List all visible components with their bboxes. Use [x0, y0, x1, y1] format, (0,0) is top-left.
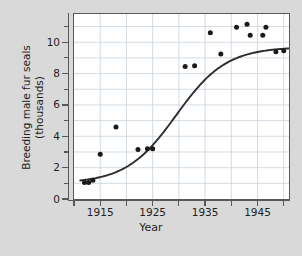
- data-point: [281, 48, 286, 53]
- y-axis-tick-major: [62, 73, 69, 74]
- x-axis-tick-label: 1915: [80, 207, 120, 218]
- data-point: [183, 64, 188, 69]
- data-point: [90, 178, 95, 183]
- data-point: [218, 51, 223, 56]
- x-axis-tick: [178, 200, 179, 206]
- data-point: [260, 33, 265, 38]
- y-axis-tick-minor: [64, 89, 69, 90]
- data-point: [273, 49, 278, 54]
- y-axis-tick-major: [62, 104, 69, 105]
- data-point: [145, 146, 150, 151]
- y-axis-tick-major: [62, 136, 69, 137]
- x-axis-tick-label: 1935: [185, 207, 225, 218]
- data-point: [248, 33, 253, 38]
- data-point: [263, 25, 268, 30]
- y-axis-title: Breeding male fur seals (thousands): [20, 23, 45, 193]
- y-axis-tick-major: [62, 42, 69, 43]
- figure-container: 0246810 Breeding male fur seals (thousan…: [0, 0, 302, 256]
- x-axis-tick: [231, 200, 232, 206]
- plot-area: [73, 13, 290, 200]
- y-axis-tick-minor: [64, 151, 69, 152]
- y-axis-tick-minor: [64, 26, 69, 27]
- x-axis-tick: [126, 200, 127, 206]
- y-axis-tick-major: [62, 167, 69, 168]
- x-axis-tick: [283, 200, 284, 206]
- data-point: [98, 152, 103, 157]
- x-axis-title: Year: [0, 221, 302, 234]
- data-point: [245, 22, 250, 27]
- y-axis-title-line2: (thousands): [32, 23, 45, 193]
- y-axis-tick-label: 0: [38, 194, 60, 205]
- data-point: [192, 63, 197, 68]
- x-axis-tick-label: 1945: [238, 207, 278, 218]
- data-layer: [74, 14, 289, 199]
- data-point: [234, 25, 239, 30]
- data-point: [86, 180, 91, 185]
- data-point: [135, 147, 140, 152]
- data-point: [208, 30, 213, 35]
- y-axis-tick-minor: [64, 183, 69, 184]
- y-axis-tick-minor: [64, 120, 69, 121]
- data-point: [150, 146, 155, 151]
- y-axis-title-line1: Breeding male fur seals: [20, 45, 32, 170]
- data-point: [113, 124, 118, 129]
- x-axis-tick-label: 1925: [133, 207, 173, 218]
- y-axis-tick-minor: [64, 57, 69, 58]
- x-axis-tick: [73, 200, 74, 206]
